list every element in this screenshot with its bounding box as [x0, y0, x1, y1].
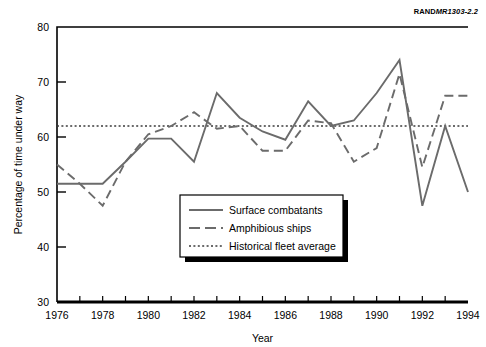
y-tick-label: 30 [37, 296, 49, 308]
series-line-surface-combatants [57, 60, 468, 206]
y-tick-label: 60 [37, 131, 49, 143]
x-tick-label: 1982 [182, 309, 206, 321]
series-line-amphibious-ships [57, 74, 468, 206]
y-axis-title: Percentage of time under way [12, 94, 24, 234]
figure-container: RANDMR1303-2.2 3040506070801976197819801… [0, 0, 486, 347]
legend-label-surface-combatants: Surface combatants [229, 204, 322, 216]
y-tick-label: 80 [37, 21, 49, 33]
x-tick-label: 1980 [137, 309, 161, 321]
x-tick-label: 1992 [411, 309, 435, 321]
x-tick-label: 1976 [45, 309, 69, 321]
x-tick-label: 1988 [319, 309, 343, 321]
y-tick-label: 40 [37, 241, 49, 253]
legend-label-historical-fleet-average: Historical fleet average [229, 240, 336, 252]
line-chart: 3040506070801976197819801982198419861988… [0, 0, 486, 347]
y-tick-label: 50 [37, 186, 49, 198]
y-tick-label: 70 [37, 76, 49, 88]
legend-label-amphibious-ships: Amphibious ships [229, 222, 311, 234]
x-tick-label: 1994 [456, 309, 480, 321]
x-tick-label: 1990 [365, 309, 389, 321]
x-axis-title: Year [252, 332, 274, 344]
x-tick-label: 1986 [274, 309, 298, 321]
x-tick-label: 1978 [91, 309, 115, 321]
x-tick-label: 1984 [228, 309, 252, 321]
